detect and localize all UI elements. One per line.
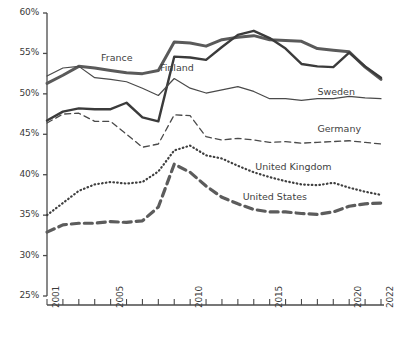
y-axis-tick-label: 55%	[0, 47, 39, 57]
y-axis-tick-label: 30%	[0, 250, 39, 260]
series-label-united-kingdom: United Kingdom	[255, 161, 331, 172]
series-label-finland: Finland	[160, 62, 194, 73]
series-line-france	[47, 36, 381, 84]
line-chart: 25%30%35%40%45%50%55%60% 200120052010201…	[0, 0, 396, 345]
y-axis-tick-label: 60%	[0, 7, 39, 17]
x-axis-tick-label: 2020	[353, 286, 363, 308]
x-axis-tick-label: 2005	[115, 286, 125, 308]
series-label-united-states: United States	[243, 191, 307, 202]
y-axis-tick-label: 35%	[0, 209, 39, 219]
series-label-germany: Germany	[317, 123, 361, 134]
y-axis-tick-label: 40%	[0, 169, 39, 179]
x-axis-tick-label: 2022	[385, 286, 395, 308]
x-axis-tick-label: 2015	[274, 286, 284, 308]
x-axis-tick-label: 2010	[194, 286, 204, 308]
series-line-united-states	[47, 164, 381, 232]
series-label-france: France	[101, 52, 133, 63]
x-axis-tick-label: 2001	[51, 286, 61, 308]
y-axis-tick-label: 45%	[0, 128, 39, 138]
chart-axes	[43, 13, 384, 305]
series-label-sweden: Sweden	[317, 86, 355, 97]
y-axis-tick-label: 25%	[0, 290, 39, 300]
y-axis-tick-label: 50%	[0, 88, 39, 98]
series-line-united-kingdom	[47, 146, 381, 216]
